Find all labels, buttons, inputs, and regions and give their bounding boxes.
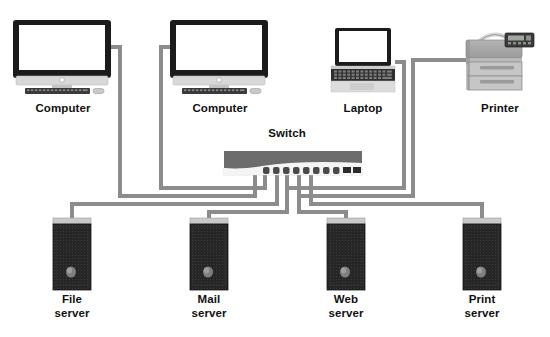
network-diagram: Switch Computer Computer Laptop Printer …: [0, 0, 550, 337]
mail-server-label: Mail server: [167, 293, 251, 320]
desktop-computer-icon-middle: [170, 20, 268, 94]
desktop-computer-icon-left: [13, 20, 111, 94]
computer-left-label: Computer: [16, 102, 110, 116]
file-server-label: File server: [30, 293, 114, 320]
server-tower-icon-web: [327, 218, 365, 290]
server-tower-icon-print: [463, 218, 501, 290]
printer-icon: [466, 33, 534, 90]
printer-label: Printer: [462, 102, 538, 116]
switch-icon: [224, 151, 362, 175]
computer-middle-label: Computer: [173, 102, 267, 116]
server-tower-icon-mail: [190, 218, 228, 290]
diagram-canvas: [0, 0, 550, 337]
laptop-label: Laptop: [330, 102, 396, 116]
laptop-icon: [331, 28, 395, 92]
server-tower-icon-file: [53, 218, 91, 290]
switch-label: Switch: [262, 127, 312, 141]
web-server-label: Web server: [304, 293, 388, 320]
print-server-label: Print server: [440, 293, 524, 320]
